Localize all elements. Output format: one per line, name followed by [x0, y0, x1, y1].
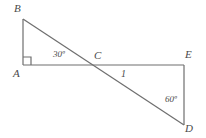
vertex-label-A: A	[13, 68, 20, 79]
right-angle-marker-icon	[23, 57, 31, 65]
segment-BD	[23, 19, 184, 125]
geometry-figure: B A C E D 30º 60º 1	[0, 0, 206, 138]
side-label-CE: 1	[121, 69, 126, 79]
vertex-label-D: D	[185, 123, 193, 134]
angle-label-at-D: 60º	[165, 95, 177, 104]
diagram-canvas	[0, 0, 206, 138]
angle-label-at-A: 30º	[53, 50, 65, 59]
vertex-label-C: C	[94, 50, 101, 61]
vertex-label-E: E	[185, 49, 192, 60]
vertex-label-B: B	[14, 3, 21, 14]
